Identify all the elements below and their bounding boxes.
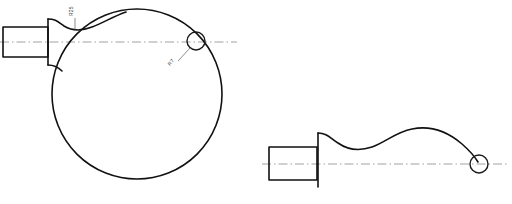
front-view: R25 R7 bbox=[0, 6, 237, 179]
technical-drawing-canvas: R25 R7 bbox=[0, 0, 512, 204]
neck-dimension-label: R25 bbox=[68, 6, 74, 16]
front-view-detail-circle bbox=[187, 32, 205, 50]
hole-dimension-leader bbox=[178, 48, 190, 61]
front-view-body-circle bbox=[52, 9, 222, 179]
side-view bbox=[262, 128, 508, 187]
hole-dimension-label: R7 bbox=[166, 58, 175, 67]
side-view-profile-curve bbox=[318, 128, 478, 162]
front-view-neck-curve-upper bbox=[48, 12, 126, 30]
side-view-stem-rect bbox=[269, 147, 317, 180]
